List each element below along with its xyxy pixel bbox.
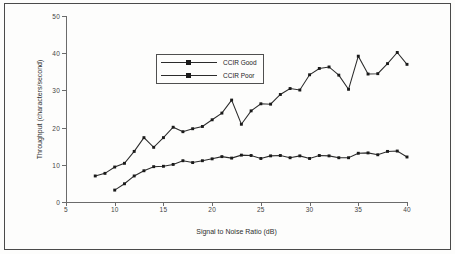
legend-marker-ccir-good bbox=[161, 58, 217, 67]
data-point bbox=[152, 165, 155, 168]
data-point bbox=[123, 182, 126, 185]
data-point bbox=[240, 154, 243, 157]
data-point bbox=[191, 161, 194, 164]
data-point bbox=[123, 162, 126, 165]
data-point bbox=[94, 175, 97, 178]
data-point bbox=[386, 62, 389, 65]
data-point bbox=[289, 87, 292, 90]
data-point bbox=[133, 150, 136, 153]
data-point bbox=[201, 125, 204, 128]
x-tick-label: 15 bbox=[160, 206, 168, 213]
data-point bbox=[259, 157, 262, 160]
data-point bbox=[220, 112, 223, 115]
data-point bbox=[162, 136, 165, 139]
y-tick-label: 50 bbox=[52, 13, 60, 20]
y-tick-label: 30 bbox=[52, 87, 60, 94]
data-point bbox=[386, 150, 389, 153]
data-point bbox=[337, 156, 340, 159]
series-ccir-poor bbox=[113, 150, 408, 192]
data-point bbox=[269, 154, 272, 157]
y-axis-title-text: Throughput (characters/second) bbox=[37, 59, 44, 159]
y-tick-label: 40 bbox=[52, 50, 60, 57]
data-point bbox=[133, 175, 136, 178]
data-point bbox=[318, 67, 321, 70]
data-point bbox=[172, 163, 175, 166]
data-point bbox=[250, 109, 253, 112]
data-point bbox=[230, 99, 233, 102]
x-axis-line bbox=[66, 202, 407, 203]
x-tick-label: 30 bbox=[306, 206, 314, 213]
data-point bbox=[396, 51, 399, 54]
data-point bbox=[357, 152, 360, 155]
data-point bbox=[172, 126, 175, 129]
data-point bbox=[347, 88, 350, 91]
data-point bbox=[259, 102, 262, 105]
series-line bbox=[115, 151, 407, 190]
legend-marker-ccir-poor bbox=[161, 71, 217, 80]
x-tick-label: 20 bbox=[208, 206, 216, 213]
data-point bbox=[298, 154, 301, 157]
data-point bbox=[318, 154, 321, 157]
plot-area: 01020304050 510152025303540 CCIR Good CC… bbox=[66, 16, 407, 202]
data-point bbox=[396, 150, 399, 153]
y-tick-label: 20 bbox=[52, 124, 60, 131]
data-point bbox=[220, 155, 223, 158]
x-tick-label: 5 bbox=[64, 206, 68, 213]
data-point bbox=[406, 63, 409, 66]
data-point bbox=[289, 156, 292, 159]
data-point bbox=[113, 166, 116, 169]
data-point bbox=[279, 93, 282, 96]
figure-container: Throughput (characters/second) Signal to… bbox=[0, 0, 455, 254]
data-point bbox=[142, 136, 145, 139]
data-point bbox=[211, 157, 214, 160]
legend-label-ccir-good: CCIR Good bbox=[223, 59, 257, 66]
data-point bbox=[337, 74, 340, 77]
data-point bbox=[308, 157, 311, 160]
data-series-layer bbox=[66, 16, 407, 202]
data-point bbox=[406, 156, 409, 159]
legend-box: CCIR Good CCIR Poor bbox=[156, 54, 264, 84]
data-point bbox=[367, 151, 370, 154]
data-point bbox=[376, 72, 379, 75]
data-point bbox=[181, 130, 184, 133]
data-point bbox=[308, 73, 311, 76]
data-point bbox=[211, 118, 214, 121]
x-tick-label: 25 bbox=[257, 206, 265, 213]
legend-label-ccir-poor: CCIR Poor bbox=[223, 72, 254, 79]
data-point bbox=[142, 169, 145, 172]
x-tick-label: 10 bbox=[111, 206, 119, 213]
x-axis-title: Signal to Noise Ratio (dB) bbox=[66, 228, 407, 235]
data-point bbox=[191, 127, 194, 130]
y-tick-label: 0 bbox=[56, 199, 60, 206]
data-point bbox=[367, 73, 370, 76]
legend-item-ccir-good: CCIR Good bbox=[161, 58, 259, 67]
data-point bbox=[162, 165, 165, 168]
y-axis-title: Throughput (characters/second) bbox=[34, 16, 46, 202]
data-point bbox=[113, 189, 116, 192]
data-point bbox=[298, 89, 301, 92]
data-point bbox=[279, 154, 282, 157]
x-tick-label: 35 bbox=[354, 206, 362, 213]
data-point bbox=[240, 123, 243, 126]
data-point bbox=[230, 157, 233, 160]
data-point bbox=[152, 146, 155, 149]
data-point bbox=[357, 55, 360, 58]
data-point bbox=[201, 159, 204, 162]
data-point bbox=[328, 154, 331, 157]
data-point bbox=[181, 159, 184, 162]
data-point bbox=[250, 154, 253, 157]
y-tick-label: 10 bbox=[52, 161, 60, 168]
legend-item-ccir-poor: CCIR Poor bbox=[161, 71, 259, 80]
data-point bbox=[376, 153, 379, 156]
x-tick-label: 40 bbox=[403, 206, 411, 213]
data-point bbox=[328, 66, 331, 69]
data-point bbox=[269, 103, 272, 106]
data-point bbox=[347, 156, 350, 159]
data-point bbox=[104, 172, 107, 175]
